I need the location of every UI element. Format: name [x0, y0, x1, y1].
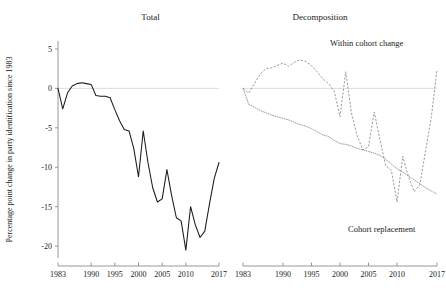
annotation-within-cohort-change: Within cohort change	[330, 38, 404, 48]
y-tick-label: 5	[48, 45, 52, 54]
series-within-cohort-change-line	[243, 60, 437, 202]
x-tick-label: 1983	[235, 270, 251, 279]
x-tick-label: 1995	[303, 270, 319, 279]
x-tick-label: 1983	[50, 270, 66, 279]
x-tick-label: 2005	[154, 270, 170, 279]
series-cohort-replacement-line	[243, 88, 437, 194]
y-axis-label: Percentage point change in party identif…	[5, 57, 14, 243]
x-tick-label: 1995	[107, 270, 123, 279]
panel-title-decomposition: Decomposition	[293, 12, 348, 22]
y-tick-label: -20	[41, 242, 52, 251]
x-tick-label: 2000	[131, 270, 147, 279]
series-total-line	[58, 83, 219, 250]
x-tick-label: 2017	[211, 270, 227, 279]
y-tick-label: -10	[41, 163, 52, 172]
x-tick-label: 2005	[361, 270, 377, 279]
y-tick-label: -5	[45, 124, 52, 133]
x-tick-label: 2010	[389, 270, 405, 279]
x-tick-label: 2017	[429, 270, 445, 279]
x-tick-label: 1990	[83, 270, 99, 279]
chart-svg: Percentage point change in party identif…	[0, 0, 446, 297]
y-tick-label: 0	[48, 84, 52, 93]
annotation-cohort-replacement: Cohort replacement	[348, 224, 416, 234]
panel-title-total: Total	[141, 12, 160, 22]
x-tick-label: 1990	[275, 270, 291, 279]
figure-container: Percentage point change in party identif…	[0, 0, 446, 297]
x-tick-label: 2000	[332, 270, 348, 279]
x-tick-label: 2010	[178, 270, 194, 279]
y-tick-label: -15	[41, 203, 52, 212]
